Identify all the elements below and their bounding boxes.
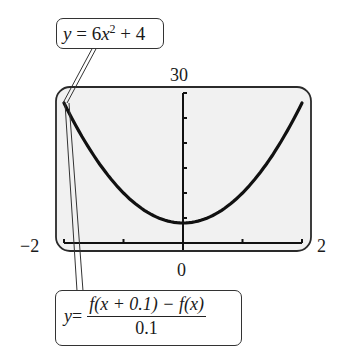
numerator: f(x + 0.1) − f(x) [87, 293, 206, 317]
x-origin-label: 0 [177, 261, 186, 279]
y-max-label: 30 [170, 66, 188, 84]
denominator: 0.1 [135, 317, 158, 339]
difference-quotient-callout: y = f(x + 0.1) − f(x) 0.1 [55, 290, 242, 346]
function-equation: y = 6x2 + 4 [63, 23, 145, 45]
x-min-label: −2 [20, 237, 39, 255]
x-max-label: 2 [317, 237, 326, 255]
difference-quotient-equation: y = f(x + 0.1) − f(x) 0.1 [64, 293, 206, 339]
function-callout: y = 6x2 + 4 [56, 18, 164, 49]
